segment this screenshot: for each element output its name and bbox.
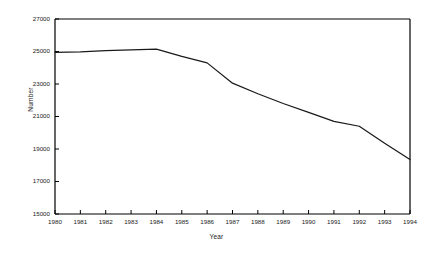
x-axis-tick-labels: 1980198119821983198419851986198719881989… [0, 219, 433, 231]
x-axis-title: Year [0, 233, 433, 240]
plot-area [0, 0, 433, 256]
data-series-line [55, 49, 410, 160]
axis-frame [55, 19, 410, 214]
x-tick-label: 1994 [393, 219, 427, 225]
line-chart: Number 150001700019000210002300025000270… [0, 0, 433, 256]
